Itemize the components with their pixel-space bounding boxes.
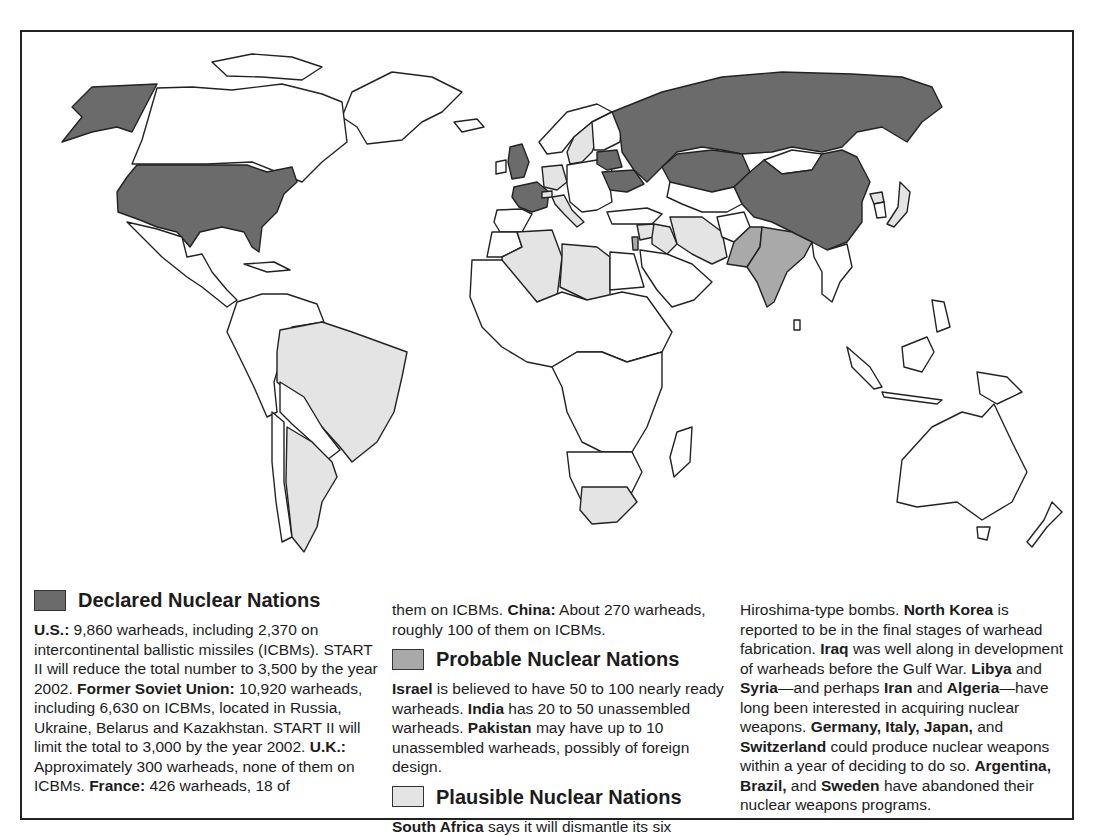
legend-heading-declared: Declared Nuclear Nations [34,588,384,612]
region-israel [632,237,638,250]
region-turkey [607,208,662,224]
region-iceland [454,119,484,132]
region-belarus [597,150,622,170]
legend-heading-plausible: Plausible Nuclear Nations [392,785,730,809]
region-new-zealand [1027,502,1062,547]
probable-description: Israel is believed to have 50 to 100 nea… [392,679,730,777]
region-greenland [342,72,462,144]
region-australia [897,404,1027,520]
region-alaska [62,84,157,142]
region-borneo [902,337,934,372]
region-new-guinea [977,372,1022,404]
swatch-declared-icon [34,590,66,611]
legend-column-3: Hiroshima-type bombs. North Korea is rep… [740,600,1070,815]
region-canada-islands [212,54,322,80]
region-madagascar [670,427,692,477]
region-germany [542,165,567,190]
region-tasmania [977,527,990,540]
swatch-plausible-icon [392,786,424,807]
plausible-description: South Africa says it will dismantle its … [392,817,730,836]
legend-column-2: them on ICBMs. China: About 270 warheads… [392,600,730,836]
region-se-asia [812,242,852,302]
region-switzerland [542,191,552,198]
region-south-africa [580,487,637,524]
plausible-description-continued: Hiroshima-type bombs. North Korea is rep… [740,600,1070,815]
swatch-probable-icon [392,649,424,670]
declared-description: U.S.: 9,860 warheads, including 2,370 on… [34,620,384,796]
region-java [882,392,942,404]
legend-column-1: Declared Nuclear Nations U.S.: 9,860 war… [34,580,384,796]
region-uk [508,144,529,179]
region-sumatra [847,347,882,389]
region-south-korea [874,202,886,218]
region-spain [494,209,532,232]
map-frame: Declared Nuclear Nations U.S.: 9,860 war… [20,30,1074,820]
world-map [22,32,1072,572]
legend-heading-probable: Probable Nuclear Nations [392,647,730,671]
region-libya [560,244,610,300]
region-japan [887,182,910,227]
declared-description-continued: them on ICBMs. China: About 270 warheads… [392,600,730,639]
region-egypt [610,252,644,290]
region-central-africa [552,352,662,452]
region-sri-lanka [794,320,800,330]
region-philippines [932,300,950,332]
region-ireland [496,160,506,174]
region-caribbean [244,262,290,272]
